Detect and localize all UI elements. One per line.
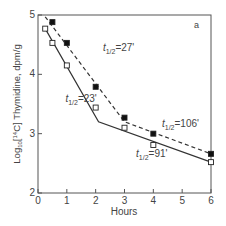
x-tick-label: 2 [93, 195, 99, 206]
open-square-marker [122, 125, 127, 130]
filled-square-marker [64, 40, 69, 45]
y-tick-label: 2 [29, 187, 35, 198]
open-square-marker [50, 40, 55, 45]
open-square-marker [93, 105, 98, 110]
x-tick-label: 1 [64, 195, 70, 206]
x-tick-label: 5 [179, 195, 185, 206]
x-tick-label: 6 [208, 195, 214, 206]
half-life-annotation: t1/2=91' [136, 148, 167, 161]
filled-square-marker [122, 115, 127, 120]
thymidine-decay-chart: 01234562345 t1/2=27't1/2=23't1/2=106't1/… [0, 0, 226, 226]
open-square-marker [151, 142, 156, 147]
annotations: t1/2=27't1/2=23't1/2=106't1/2=91' [65, 42, 199, 162]
open-square-marker [209, 160, 214, 165]
x-tick-label: 4 [151, 195, 157, 206]
x-tick-label: 0 [35, 195, 41, 206]
fit-line [45, 17, 211, 154]
panel-label: a [194, 20, 199, 30]
series-1 [45, 17, 213, 157]
y-tick-label: 4 [29, 68, 35, 79]
x-axis-label: Hours [111, 206, 138, 217]
half-life-annotation: t1/2=23' [65, 93, 96, 106]
y-axis-label: Log10[14C] Thymidine, dpm/g [11, 44, 23, 163]
filled-square-marker [151, 131, 156, 136]
filled-square-marker [93, 84, 98, 89]
open-square-marker [43, 26, 48, 31]
filled-square-marker [209, 151, 214, 156]
x-tick-label: 3 [122, 195, 128, 206]
y-label-prefix: Log [11, 148, 22, 164]
y-tick-label: 3 [29, 128, 35, 139]
series-layer [43, 17, 214, 165]
half-life-annotation: t1/2=27' [103, 42, 134, 55]
half-life-annotation: t1/2=106' [162, 118, 199, 131]
y-label-rest: C] Thymidine, dpm/g [11, 44, 22, 131]
y-tick-label: 5 [29, 9, 35, 20]
axis-ticks: 01234562345 [29, 9, 214, 206]
filled-square-marker [50, 20, 55, 25]
open-square-marker [64, 63, 69, 68]
